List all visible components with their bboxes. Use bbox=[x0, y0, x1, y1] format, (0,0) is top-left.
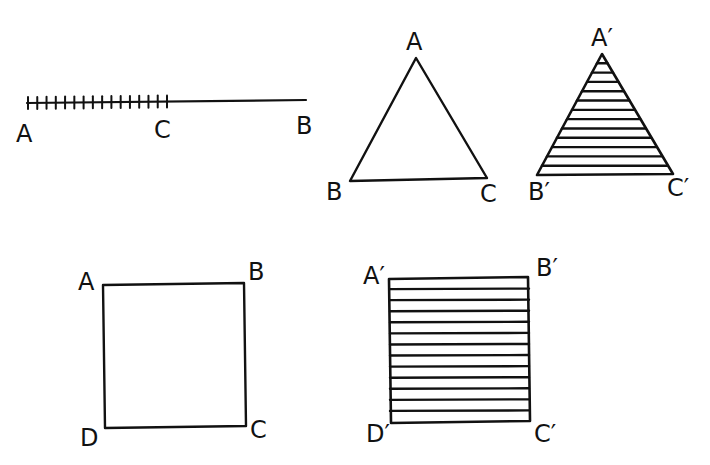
hatch-line bbox=[390, 410, 529, 411]
hatch-line bbox=[390, 300, 529, 301]
triangle-prime: A′ B′ C′ bbox=[528, 24, 689, 206]
square-outline bbox=[103, 283, 246, 428]
triangle-outline bbox=[350, 58, 487, 181]
square-label-a: A bbox=[78, 268, 95, 296]
hatch-line bbox=[390, 344, 529, 345]
hatch-line bbox=[390, 333, 529, 334]
hatch-line bbox=[390, 322, 529, 323]
square-label-c: C bbox=[250, 416, 267, 444]
segment-label-c: C bbox=[154, 116, 171, 144]
triangle-prime-label-c: C′ bbox=[667, 174, 689, 202]
square-prime: A′ B′ C′ D′ bbox=[363, 254, 558, 448]
hatch-line bbox=[390, 355, 529, 356]
square-prime-label-a: A′ bbox=[363, 262, 385, 290]
hatch-line bbox=[390, 377, 529, 378]
square-label-b: B bbox=[248, 258, 264, 286]
hatch-line bbox=[390, 388, 529, 389]
segment-label-b: B bbox=[296, 112, 312, 140]
square-prime-label-d: D′ bbox=[366, 420, 390, 448]
square-prime-hatching bbox=[390, 289, 529, 411]
square-label-d: D bbox=[80, 424, 98, 452]
triangle-prime-label-a: A′ bbox=[591, 24, 613, 52]
line-segment-figure: A C B bbox=[16, 95, 312, 148]
square-abcd: A B C D bbox=[78, 258, 267, 452]
triangle-abc: A B C bbox=[326, 28, 497, 208]
triangle-label-c: C bbox=[480, 180, 497, 208]
hatch-line bbox=[390, 399, 529, 400]
hatch-line bbox=[390, 366, 529, 367]
hatch-line bbox=[390, 289, 529, 290]
triangle-prime-hatching bbox=[542, 63, 668, 165]
geometry-diagram: A C B A B C A′ B′ C′ A B C D A′ B′ C′ D′ bbox=[0, 0, 710, 465]
triangle-label-a: A bbox=[406, 28, 423, 56]
square-prime-label-b: B′ bbox=[536, 254, 558, 282]
triangle-label-b: B bbox=[326, 178, 342, 206]
square-prime-label-c: C′ bbox=[534, 420, 556, 448]
triangle-prime-label-b: B′ bbox=[528, 178, 550, 206]
segment-label-a: A bbox=[16, 120, 33, 148]
hatch-line bbox=[390, 311, 529, 312]
